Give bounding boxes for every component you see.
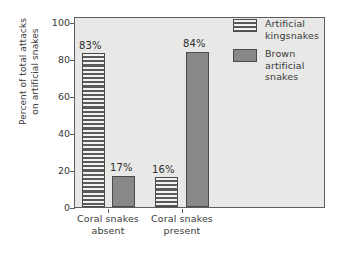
chart-screenshot: Percent of total attacks on artificial s… bbox=[0, 0, 343, 254]
legend-item-brown[interactable]: Brown artificial snakes bbox=[233, 48, 319, 83]
legend-swatch-striped-icon bbox=[233, 19, 257, 32]
bar-kingsnakes-absent[interactable] bbox=[82, 53, 105, 207]
y-tick-label-40: 40 bbox=[48, 129, 70, 139]
bar-value-brown-absent: 17% bbox=[110, 162, 133, 173]
bar-value-kingsnakes-present: 16% bbox=[152, 164, 175, 175]
x-group-label-present-line-2: present bbox=[140, 225, 224, 237]
legend-label-brown-line-2: artificial bbox=[265, 60, 304, 72]
legend-label-brown-line-3: snakes bbox=[265, 71, 304, 83]
legend: Artificial kingsnakes Brown artificial s… bbox=[233, 18, 319, 90]
x-group-label-absent-line-2: absent bbox=[66, 225, 150, 237]
legend-label-kingsnakes: Artificial kingsnakes bbox=[265, 18, 319, 41]
legend-label-kingsnakes-line-1: Artificial bbox=[265, 18, 319, 30]
legend-swatch-solid-icon bbox=[233, 49, 257, 62]
y-tick-mark-0 bbox=[70, 208, 75, 209]
bar-kingsnakes-present[interactable] bbox=[155, 177, 178, 207]
x-group-label-absent-line-1: Coral snakes bbox=[66, 213, 150, 225]
x-group-label-present-line-1: Coral snakes bbox=[140, 213, 224, 225]
legend-label-brown-line-1: Brown bbox=[265, 48, 304, 60]
bar-brown-absent[interactable] bbox=[112, 176, 135, 208]
y-axis-title-line-2: on artificial snakes bbox=[29, 0, 41, 147]
bar-value-brown-present: 84% bbox=[183, 38, 206, 49]
y-axis-title: Percent of total attacks on artificial s… bbox=[18, 0, 41, 147]
bar-brown-present[interactable] bbox=[186, 52, 209, 207]
legend-label-brown: Brown artificial snakes bbox=[265, 48, 304, 83]
x-group-label-present: Coral snakes present bbox=[140, 213, 224, 236]
y-tick-label-60: 60 bbox=[48, 92, 70, 102]
x-group-label-absent: Coral snakes absent bbox=[66, 213, 150, 236]
bar-value-kingsnakes-absent: 83% bbox=[79, 40, 102, 51]
y-tick-label-20: 20 bbox=[48, 166, 70, 176]
y-tick-label-80: 80 bbox=[48, 55, 70, 65]
y-tick-label-0: 0 bbox=[48, 203, 70, 213]
y-tick-label-100: 100 bbox=[48, 18, 70, 28]
legend-label-kingsnakes-line-2: kingsnakes bbox=[265, 30, 319, 42]
y-axis-title-line-1: Percent of total attacks bbox=[18, 0, 30, 147]
legend-item-kingsnakes[interactable]: Artificial kingsnakes bbox=[233, 18, 319, 41]
